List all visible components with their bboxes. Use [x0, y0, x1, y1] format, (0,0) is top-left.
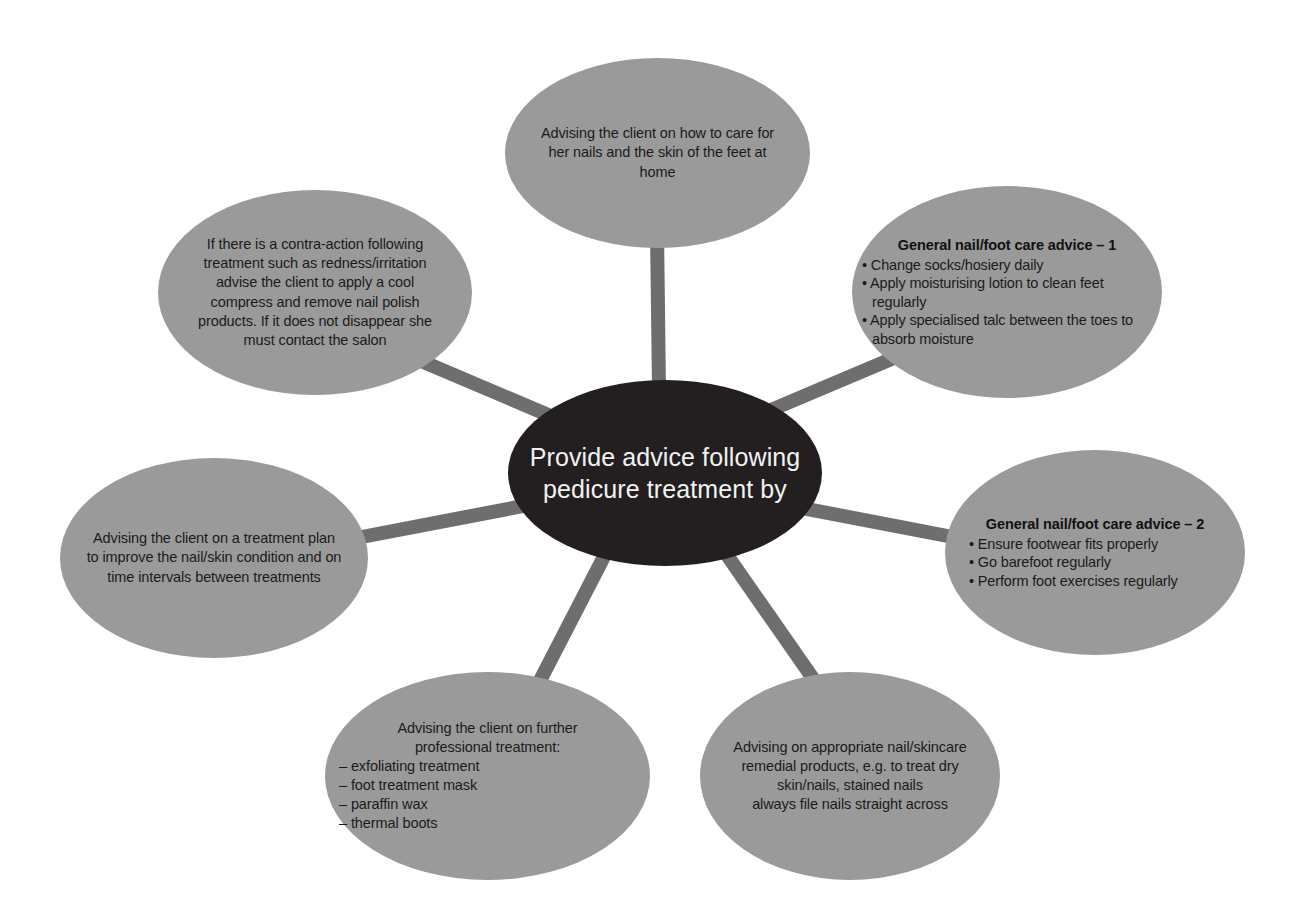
further-treatment-body: Advising the client on further professio…	[325, 719, 650, 832]
list-item: – foot treatment mask	[339, 776, 640, 795]
further-treatment-node[interactable]: Advising the client on further professio…	[325, 672, 650, 880]
list-item: • Ensure footwear fits properly	[969, 535, 1235, 554]
contra-action-text: If there is a contra-action following tr…	[192, 235, 438, 350]
list-item: • Go barefoot regularly	[969, 553, 1235, 572]
list-item: • Perform foot exercises regularly	[969, 572, 1235, 591]
list-item: • Apply moisturising lotion to clean fee…	[862, 274, 1152, 311]
home-care-node[interactable]: Advising the client on how to care for h…	[505, 58, 810, 248]
general-advice-1-body: General nail/foot care advice – 1 • Chan…	[852, 236, 1162, 349]
list-item: • Change socks/hosiery daily	[862, 256, 1152, 275]
spoke-to-further-treatment	[530, 545, 610, 700]
general-advice-2-heading: General nail/foot care advice – 2	[955, 515, 1235, 534]
general-advice-1-heading: General nail/foot care advice – 1	[862, 236, 1152, 255]
general-advice-1-bullets: • Change socks/hosiery daily • Apply moi…	[862, 256, 1152, 349]
diagram-canvas: Provide advice following pedicure treatm…	[0, 0, 1297, 917]
list-item: • Apply specialised talc between the toe…	[862, 311, 1152, 348]
general-advice-2-node[interactable]: General nail/foot care advice – 2 • Ensu…	[945, 450, 1245, 655]
list-item: – exfoliating treatment	[339, 757, 640, 776]
contra-action-node[interactable]: If there is a contra-action following tr…	[158, 190, 472, 395]
home-care-text: Advising the client on how to care for h…	[535, 124, 780, 181]
list-item: – thermal boots	[339, 814, 640, 833]
list-item: – paraffin wax	[339, 795, 640, 814]
remedial-products-node[interactable]: Advising on appropriate nail/skincare re…	[700, 672, 1000, 880]
center-hub[interactable]: Provide advice following pedicure treatm…	[508, 380, 822, 566]
remedial-products-text: Advising on appropriate nail/skincare re…	[727, 738, 972, 815]
general-advice-2-body: General nail/foot care advice – 2 • Ensu…	[945, 515, 1245, 590]
treatment-plan-node[interactable]: Advising the client on a treatment plan …	[60, 458, 368, 658]
center-hub-label: Provide advice following pedicure treatm…	[524, 441, 807, 506]
further-treatment-intro: Advising the client on further professio…	[335, 719, 640, 757]
general-advice-2-bullets: • Ensure footwear fits properly • Go bar…	[955, 535, 1235, 591]
further-treatment-items: – exfoliating treatment – foot treatment…	[335, 757, 640, 832]
general-advice-1-node[interactable]: General nail/foot care advice – 1 • Chan…	[852, 186, 1162, 398]
treatment-plan-text: Advising the client on a treatment plan …	[81, 529, 348, 586]
